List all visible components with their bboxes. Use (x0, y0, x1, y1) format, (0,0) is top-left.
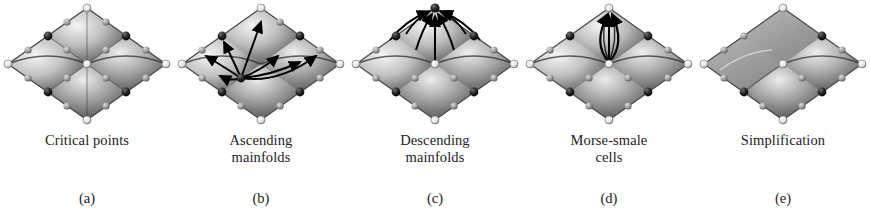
panel-sublabel-e: (e) (696, 190, 870, 207)
surface-render-d (522, 0, 696, 128)
panel-sublabel-a: (a) (0, 190, 174, 207)
surface-render-b (174, 0, 348, 128)
caption-line2-b: mainfolds (177, 149, 345, 166)
panel-b: Ascending mainfolds (b) (174, 0, 348, 224)
surface-render-a (0, 0, 174, 128)
caption-line1-a: Critical points (45, 132, 129, 148)
panel-sublabel-d: (d) (522, 190, 696, 207)
surface-b (174, 0, 348, 128)
panel-caption-d: Morse-smale cells (525, 132, 693, 166)
surface-d (522, 0, 696, 128)
caption-line1-c: Descending (400, 132, 469, 148)
panel-caption-a: Critical points (3, 132, 171, 149)
panel-d: Morse-smale cells (d) (522, 0, 696, 224)
caption-line1-e: Simplification (741, 132, 825, 148)
caption-line2-d: cells (525, 149, 693, 166)
surface-a (0, 0, 174, 128)
panel-sublabel-b: (b) (174, 190, 348, 207)
panel-c: Descending mainfolds (c) (348, 0, 522, 224)
panel-a: Critical points (a) (0, 0, 174, 224)
surface-e (696, 0, 870, 128)
morse-smale-figure: Critical points (a) (0, 0, 870, 224)
panel-caption-c: Descending mainfolds (351, 132, 519, 166)
panel-sublabel-c: (c) (348, 190, 522, 207)
surface-render-c (348, 0, 522, 128)
panel-caption-e: Simplification (699, 132, 867, 149)
caption-line1-d: Morse-smale (571, 132, 648, 148)
caption-line2-c: mainfolds (351, 149, 519, 166)
panel-e: Simplification (e) (696, 0, 870, 224)
surface-render-e (696, 0, 870, 128)
surface-c (348, 0, 522, 128)
panel-caption-b: Ascending mainfolds (177, 132, 345, 166)
caption-line1-b: Ascending (230, 132, 293, 148)
